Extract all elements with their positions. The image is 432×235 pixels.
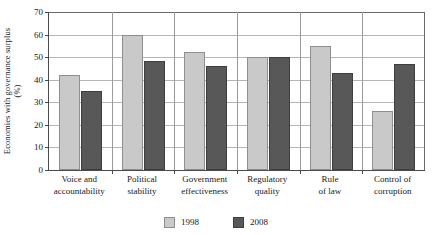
bar bbox=[206, 66, 227, 170]
y-axis-tick-mark bbox=[45, 170, 49, 171]
bar bbox=[122, 35, 143, 170]
x-axis-category-label: Voice andaccountability bbox=[48, 174, 111, 197]
y-axis-title: Economies with governance surplus (%) bbox=[0, 0, 24, 182]
x-axis-category-label-line: stability bbox=[111, 186, 174, 198]
x-axis-category-label-line: quality bbox=[236, 186, 299, 198]
bar bbox=[269, 57, 290, 170]
bar bbox=[372, 111, 393, 170]
x-axis-category-label-line: Voice and bbox=[48, 174, 111, 186]
x-axis-category-label-line: effectiveness bbox=[173, 186, 236, 198]
legend-label: 1998 bbox=[181, 218, 199, 227]
x-axis-category-label-line: Control of bbox=[361, 174, 424, 186]
y-axis-tick-label: 30 bbox=[34, 98, 43, 107]
legend-item[interactable]: 2008 bbox=[233, 217, 268, 228]
y-axis-tick-label: 60 bbox=[34, 30, 43, 39]
y-axis-tick-labels: 010203040506070 bbox=[24, 12, 46, 170]
y-axis-tick-label: 70 bbox=[34, 8, 43, 17]
x-axis-category-label-line: Political bbox=[111, 174, 174, 186]
bar bbox=[59, 75, 80, 170]
legend-swatch bbox=[164, 217, 175, 228]
bar bbox=[332, 73, 353, 170]
bar bbox=[184, 52, 205, 171]
chart-legend: 19982008 bbox=[0, 212, 432, 232]
y-axis-title-line1: Economies with governance surplus bbox=[2, 28, 12, 154]
y-axis-tick-label: 20 bbox=[34, 120, 43, 129]
x-axis-category-label-line: Regulatory bbox=[236, 174, 299, 186]
y-axis-tick-label: 50 bbox=[34, 53, 43, 62]
bar bbox=[394, 64, 415, 170]
bars-layer bbox=[49, 12, 425, 170]
y-axis-tick-label: 40 bbox=[34, 75, 43, 84]
bar bbox=[81, 91, 102, 170]
x-axis-category-label-line: accountability bbox=[48, 186, 111, 198]
legend-label: 2008 bbox=[250, 218, 268, 227]
y-axis-tick-label: 10 bbox=[34, 143, 43, 152]
bar bbox=[247, 57, 268, 170]
x-axis-category-labels: Voice andaccountabilityPoliticalstabilit… bbox=[48, 174, 424, 206]
bar-chart: Economies with governance surplus (%) 01… bbox=[0, 0, 432, 235]
bar bbox=[310, 46, 331, 170]
x-axis-category-label-line: Rule bbox=[299, 174, 362, 186]
x-axis-category-label-line: of law bbox=[299, 186, 362, 198]
x-axis-category-label: Ruleof law bbox=[299, 174, 362, 197]
y-axis-tick-label: 0 bbox=[39, 166, 44, 175]
plot-area bbox=[48, 12, 425, 171]
x-axis-category-label: Control ofcorruption bbox=[361, 174, 424, 197]
legend-item[interactable]: 1998 bbox=[164, 217, 199, 228]
x-axis-category-label: Politicalstability bbox=[111, 174, 174, 197]
bar bbox=[144, 61, 165, 170]
x-axis-category-label-line: corruption bbox=[361, 186, 424, 198]
y-axis-title-line2: (%) bbox=[12, 28, 22, 154]
x-axis-category-label: Governmenteffectiveness bbox=[173, 174, 236, 197]
x-axis-category-label-line: Government bbox=[173, 174, 236, 186]
x-axis-category-label: Regulatoryquality bbox=[236, 174, 299, 197]
legend-swatch bbox=[233, 217, 244, 228]
